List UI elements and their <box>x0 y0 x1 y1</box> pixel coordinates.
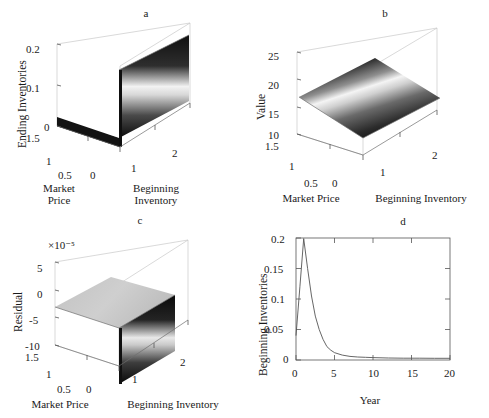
panel-a-surface-plot <box>0 0 245 210</box>
panel-d-line-plot <box>245 210 489 418</box>
panel-c: c Residual ×10⁻⁵ 5 0 -5 -10 1.5 1 0.5 0 … <box>0 210 245 418</box>
panel-c-surface-plot <box>0 210 245 418</box>
panel-d: d Beginning Inventories Year 0.2 0.15 0.… <box>245 210 489 418</box>
figure-panel-grid: a Ending Inventories 0.2 0.1 0 1.5 1 0.5… <box>0 0 489 418</box>
panel-b: b Value 25 20 15 10 1.5 1 0.5 0 1 2 Mark… <box>245 0 489 210</box>
panel-a: a Ending Inventories 0.2 0.1 0 1.5 1 0.5… <box>0 0 245 210</box>
panel-b-surface-plot <box>245 0 489 210</box>
